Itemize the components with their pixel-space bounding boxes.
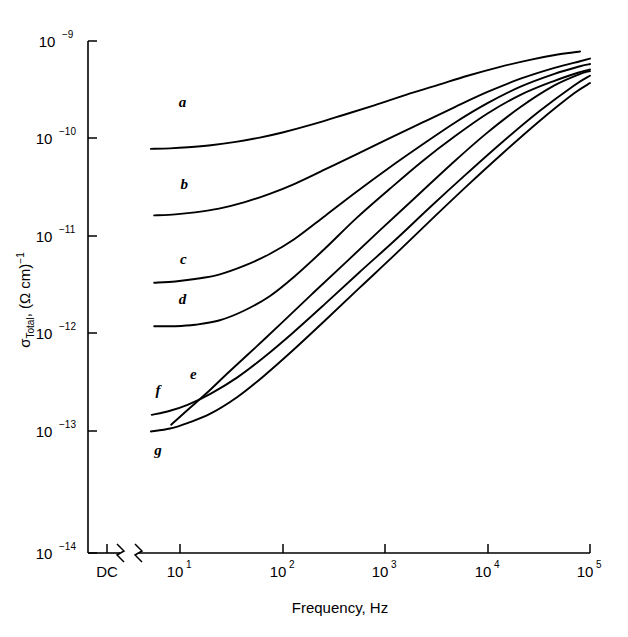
y-tick-label-1e-12-mantissa: 10 bbox=[36, 325, 53, 342]
curve-label-c: c bbox=[180, 251, 187, 267]
y-tick-label-1e-13-mantissa: 10 bbox=[36, 423, 53, 440]
y-axis-title-exponent: −1 bbox=[15, 252, 26, 264]
curve-g bbox=[151, 83, 590, 431]
curve-label-g: g bbox=[153, 442, 162, 458]
y-tick-label-1e-12-exponent: −12 bbox=[59, 321, 76, 332]
curve-e bbox=[171, 71, 590, 425]
curve-b bbox=[154, 59, 590, 216]
curve-a bbox=[151, 52, 580, 149]
y-axis-ticks bbox=[88, 41, 97, 553]
y-tick-label-1e-10-exponent: −10 bbox=[59, 126, 76, 137]
y-axis-tick-labels: 10 −9 10 −10 10 −11 10 −12 10 −13 10 −14 bbox=[36, 29, 77, 562]
x-tick-label-1e3-exponent: 3 bbox=[391, 559, 397, 570]
x-axis-tick-labels: DC 10 1 10 2 10 3 10 4 10 5 bbox=[96, 559, 602, 580]
curve-label-a: a bbox=[179, 94, 187, 110]
x-tick-label-1e2-mantissa: 10 bbox=[270, 563, 287, 580]
y-axis-title: σTotal, (Ω cm)−1 bbox=[15, 252, 36, 348]
conductivity-vs-frequency-chart: 10 −9 10 −10 10 −11 10 −12 10 −13 10 −14… bbox=[0, 0, 628, 637]
x-tick-label-dc: DC bbox=[96, 563, 118, 580]
curve-c bbox=[154, 64, 590, 283]
curve-label-b: b bbox=[180, 176, 188, 192]
x-tick-label-1e5-exponent: 5 bbox=[596, 559, 602, 570]
x-axis-title: Frequency, Hz bbox=[292, 599, 388, 616]
y-tick-label-1e-10-mantissa: 10 bbox=[36, 130, 53, 147]
curve-label-d: d bbox=[179, 291, 187, 307]
x-axis-ticks bbox=[107, 544, 590, 553]
caption-strip bbox=[0, 624, 628, 637]
y-axis-title-units: , (Ω cm) bbox=[16, 264, 33, 318]
x-tick-label-1e2-exponent: 2 bbox=[289, 559, 295, 570]
y-tick-label-1e-13-exponent: −13 bbox=[59, 419, 76, 430]
figure-container: 10 −9 10 −10 10 −11 10 −12 10 −13 10 −14… bbox=[0, 0, 628, 637]
x-tick-label-1e5-mantissa: 10 bbox=[577, 563, 594, 580]
y-tick-label-1e-9-exponent: −9 bbox=[62, 29, 74, 40]
y-tick-label-1e-14-mantissa: 10 bbox=[36, 545, 53, 562]
x-tick-label-1e4-mantissa: 10 bbox=[475, 563, 492, 580]
y-axis-title-subscript: Total bbox=[25, 317, 36, 338]
svg-text:σTotal, (Ω cm)−1: σTotal, (Ω cm)−1 bbox=[15, 252, 36, 348]
curve-label-f: f bbox=[156, 382, 163, 398]
y-tick-label-1e-11-mantissa: 10 bbox=[36, 228, 53, 245]
x-tick-label-1e1-exponent: 1 bbox=[186, 559, 192, 570]
x-tick-label-1e1-mantissa: 10 bbox=[167, 563, 184, 580]
curve-f bbox=[152, 76, 590, 415]
curve-label-e: e bbox=[190, 366, 197, 382]
curve-d bbox=[154, 69, 590, 326]
data-curves-group bbox=[151, 52, 590, 432]
x-tick-label-1e3-mantissa: 10 bbox=[372, 563, 389, 580]
y-tick-label-1e-9-mantissa: 10 bbox=[39, 33, 56, 50]
y-tick-label-1e-11-exponent: −11 bbox=[59, 224, 76, 235]
x-tick-label-1e4-exponent: 4 bbox=[494, 559, 500, 570]
y-tick-label-1e-14-exponent: −14 bbox=[59, 541, 76, 552]
